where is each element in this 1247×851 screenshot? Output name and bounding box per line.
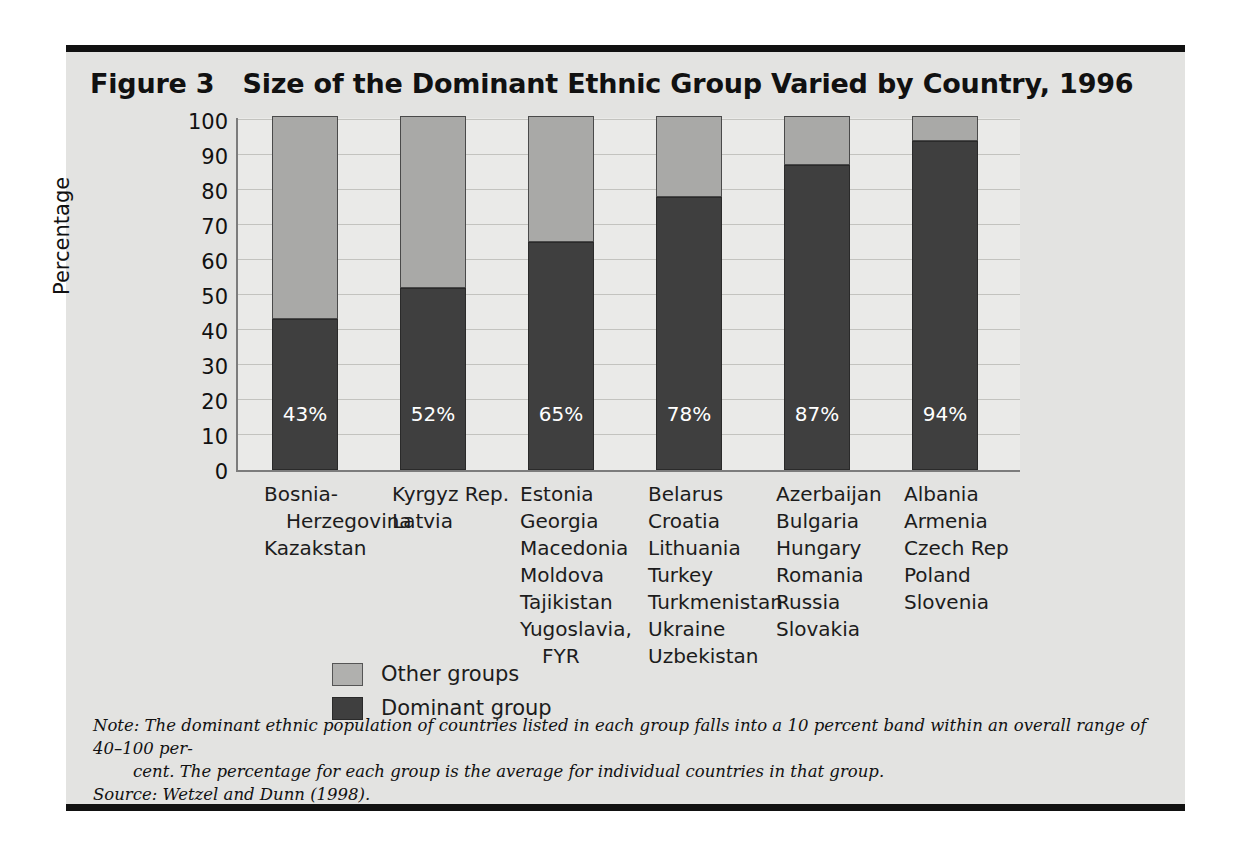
bar-segment-other-groups bbox=[528, 116, 594, 242]
category-country-label: Russia bbox=[776, 589, 882, 616]
bar-group: 43% bbox=[272, 116, 338, 470]
chart-container: 0102030405060708090100 Percentage 43%52%… bbox=[66, 45, 1185, 811]
category-country-label: Poland bbox=[904, 562, 1009, 589]
category-country-label: Estonia bbox=[520, 481, 632, 508]
legend-swatch-other bbox=[332, 663, 363, 686]
bar-group: 52% bbox=[400, 116, 466, 470]
y-axis-tick-label: 30 bbox=[176, 355, 228, 379]
category-country-label: Hungary bbox=[776, 535, 882, 562]
gridline bbox=[238, 119, 1020, 120]
gridline bbox=[238, 294, 1020, 295]
gridline bbox=[238, 224, 1020, 225]
category-country-label: Macedonia bbox=[520, 535, 632, 562]
category-country-label: Latvia bbox=[392, 508, 509, 535]
y-axis-tick-label: 80 bbox=[176, 180, 228, 204]
category-country-label: Bulgaria bbox=[776, 508, 882, 535]
bar-segment-other-groups bbox=[400, 116, 466, 288]
category-country-label: Uzbekistan bbox=[648, 643, 783, 670]
figure-notes: Note: The dominant ethnic population of … bbox=[93, 714, 1163, 806]
category-country-label: Romania bbox=[776, 562, 882, 589]
note-line-1: Note: The dominant ethnic population of … bbox=[93, 714, 1163, 760]
legend-item-other[interactable]: Other groups bbox=[332, 657, 552, 691]
category-country-label: Moldova bbox=[520, 562, 632, 589]
x-axis-category-labels: Bosnia-HerzegovinaKazakstanKyrgyz Rep.La… bbox=[236, 481, 1096, 661]
bar-segment-dominant-group bbox=[656, 197, 722, 470]
bar-group: 65% bbox=[528, 116, 594, 470]
y-axis-tick-labels: 0102030405060708090100 bbox=[170, 118, 228, 472]
bar-segment-other-groups bbox=[272, 116, 338, 319]
gridline bbox=[238, 329, 1020, 330]
category-country-label: Ukraine bbox=[648, 616, 783, 643]
category-country-label: Albania bbox=[904, 481, 1009, 508]
category-column: Kyrgyz Rep.Latvia bbox=[392, 481, 509, 535]
y-axis-tick-label: 70 bbox=[176, 215, 228, 239]
gridline bbox=[238, 154, 1020, 155]
y-axis-tick-label: 60 bbox=[176, 250, 228, 274]
bar-value-label: 94% bbox=[912, 402, 978, 426]
category-country-label: Herzegovina bbox=[264, 508, 412, 535]
category-column: AzerbaijanBulgariaHungaryRomaniaRussiaSl… bbox=[776, 481, 882, 643]
category-country-label: Kyrgyz Rep. bbox=[392, 481, 509, 508]
category-country-label: Croatia bbox=[648, 508, 783, 535]
bar-value-label: 87% bbox=[784, 402, 850, 426]
bar-group: 78% bbox=[656, 116, 722, 470]
plot-area: 43%52%65%78%87%94% bbox=[236, 118, 1020, 472]
category-country-label: Yugoslavia, bbox=[520, 616, 632, 643]
category-country-label: Kazakstan bbox=[264, 535, 412, 562]
category-country-label: Armenia bbox=[904, 508, 1009, 535]
bar-value-label: 43% bbox=[272, 402, 338, 426]
gridline bbox=[238, 434, 1020, 435]
y-axis-tick-label: 40 bbox=[176, 320, 228, 344]
bar-group: 94% bbox=[912, 116, 978, 470]
bar-segment-other-groups bbox=[656, 116, 722, 197]
category-country-label: Slovenia bbox=[904, 589, 1009, 616]
gridline bbox=[238, 399, 1020, 400]
category-country-label: Georgia bbox=[520, 508, 632, 535]
category-country-label: Czech Rep bbox=[904, 535, 1009, 562]
category-country-label: Turkey bbox=[648, 562, 783, 589]
gridline bbox=[238, 259, 1020, 260]
bar-segment-dominant-group bbox=[400, 288, 466, 470]
category-country-label: Tajikistan bbox=[520, 589, 632, 616]
bar-segment-other-groups bbox=[912, 116, 978, 141]
figure-page: Figure 3 Size of the Dominant Ethnic Gro… bbox=[0, 0, 1247, 851]
category-country-label: Lithuania bbox=[648, 535, 783, 562]
y-axis-title: Percentage bbox=[50, 177, 74, 295]
note-line-2: cent. The percentage for each group is t… bbox=[93, 760, 1163, 783]
y-axis-tick-label: 100 bbox=[176, 110, 228, 134]
y-axis-tick-label: 0 bbox=[176, 460, 228, 484]
category-country-label: Azerbaijan bbox=[776, 481, 882, 508]
legend-label-other: Other groups bbox=[381, 662, 519, 686]
category-country-label: Turkmenistan bbox=[648, 589, 783, 616]
bar-segment-other-groups bbox=[784, 116, 850, 165]
bar-value-label: 65% bbox=[528, 402, 594, 426]
bar-value-label: 78% bbox=[656, 402, 722, 426]
category-column: AlbaniaArmeniaCzech RepPolandSlovenia bbox=[904, 481, 1009, 616]
category-column: BelarusCroatiaLithuaniaTurkeyTurkmenista… bbox=[648, 481, 783, 670]
category-column: Bosnia-HerzegovinaKazakstan bbox=[264, 481, 412, 562]
y-axis-tick-label: 90 bbox=[176, 145, 228, 169]
gridline bbox=[238, 364, 1020, 365]
bar-segment-dominant-group bbox=[528, 242, 594, 470]
bar-value-label: 52% bbox=[400, 402, 466, 426]
category-country-label: Slovakia bbox=[776, 616, 882, 643]
category-country-label: Belarus bbox=[648, 481, 783, 508]
y-axis-tick-label: 50 bbox=[176, 285, 228, 309]
y-axis-tick-label: 10 bbox=[176, 425, 228, 449]
category-country-label: Bosnia- bbox=[264, 481, 412, 508]
bar-segment-dominant-group bbox=[272, 319, 338, 470]
gridline bbox=[238, 189, 1020, 190]
source-line: Source: Wetzel and Dunn (1998). bbox=[93, 783, 1163, 806]
category-column: EstoniaGeorgiaMacedoniaMoldovaTajikistan… bbox=[520, 481, 632, 670]
y-axis-tick-label: 20 bbox=[176, 390, 228, 414]
bar-group: 87% bbox=[784, 116, 850, 470]
